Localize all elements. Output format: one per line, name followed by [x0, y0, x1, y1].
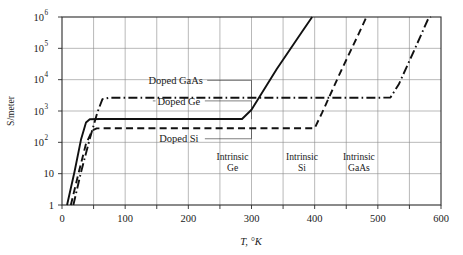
y-axis-tick-labels: 110102103104105106 — [34, 9, 55, 211]
y-tick-label: 10 — [34, 137, 45, 148]
x-tick-label: 300 — [244, 213, 260, 224]
chart-canvas: 110102103104105106 0100200300400500600 D… — [0, 0, 463, 255]
y-tick-label: 10 — [44, 168, 55, 179]
x-tick-label: 200 — [180, 213, 196, 224]
series-annotations: Doped GaAsDoped GeDoped SiIntrinsicGeInt… — [148, 75, 374, 173]
y-tick-label: 10 — [34, 43, 45, 54]
region-label-gaas: Intrinsic — [343, 151, 375, 162]
x-tick-label: 100 — [117, 213, 133, 224]
y-tick-label: 10 — [34, 12, 45, 23]
y-tick-label: 1 — [49, 200, 54, 211]
region-label-si-material: Si — [298, 162, 306, 173]
y-tick-label-exponent: 2 — [45, 134, 49, 142]
region-label-ge-material: Ge — [227, 162, 238, 173]
y-tick-label: 10 — [34, 106, 45, 117]
y-tick-label-exponent: 3 — [45, 103, 49, 111]
series-label: Doped Ge — [157, 96, 200, 107]
region-label-si: Intrinsic — [286, 151, 318, 162]
x-tick-label: 500 — [370, 213, 386, 224]
region-label-ge: Intrinsic — [217, 151, 249, 162]
y-axis-title: S/meter — [5, 95, 16, 126]
tick-marks — [58, 17, 441, 209]
x-axis-title: T, °K — [240, 236, 263, 247]
x-tick-label: 600 — [433, 213, 449, 224]
x-tick-label: 0 — [59, 213, 64, 224]
y-tick-label-exponent: 5 — [45, 40, 49, 48]
y-tick-label: 10 — [34, 74, 45, 85]
y-tick-label-exponent: 6 — [45, 9, 49, 17]
annotation-leader-lines — [153, 80, 252, 138]
semiconductor-conductivity-chart: 110102103104105106 0100200300400500600 D… — [0, 0, 463, 255]
y-tick-label-exponent: 4 — [45, 71, 49, 79]
series-label: Doped GaAs — [148, 75, 203, 86]
x-axis-tick-labels: 0100200300400500600 — [59, 213, 449, 224]
x-tick-label: 400 — [307, 213, 323, 224]
region-label-gaas-material: GaAs — [348, 162, 370, 173]
series-label: Doped Si — [159, 133, 198, 144]
